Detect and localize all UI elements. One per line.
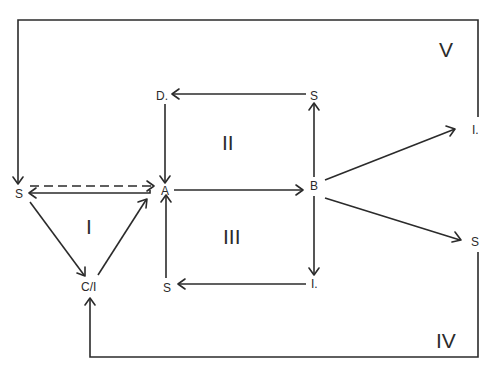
node-a: A [161, 184, 169, 198]
node-i-bottom: I. [311, 277, 318, 291]
cycle-diagram: S A B D. S I. S C/I S I. I II III IV V [0, 0, 503, 376]
edge-b-to-s-right [325, 198, 461, 242]
edge-b-to-s-top [309, 103, 319, 177]
edge-loop-v [13, 20, 478, 184]
edge-s-to-ci [30, 202, 85, 276]
region-label-ii: II [222, 131, 234, 154]
node-i-right: I. [472, 123, 479, 137]
edge-s-top-to-d [172, 89, 306, 99]
edge-loop-iv [85, 252, 478, 357]
edge-b-to-i-bottom [309, 196, 319, 275]
node-b: B [310, 179, 318, 193]
node-s-left: S [15, 187, 23, 201]
node-c-i: C/I [81, 280, 96, 294]
edge-s-bottom-to-a [161, 195, 171, 278]
edge-i-bottom-to-s-bottom [178, 279, 306, 289]
node-s-right: S [471, 235, 479, 249]
edge-d-to-a [160, 104, 170, 183]
region-label-v: V [439, 38, 453, 61]
edge-ci-to-a [98, 199, 147, 275]
edge-b-to-i-right [325, 126, 455, 180]
edge-a-to-b [174, 185, 303, 195]
node-s-bottom: S [163, 281, 171, 295]
arrowhead-icon [452, 232, 461, 242]
region-label-iii: III [223, 225, 241, 248]
node-s-top: S [310, 89, 318, 103]
edge-a-to-s [29, 188, 150, 198]
region-label-iv: IV [436, 329, 456, 352]
region-label-i: I [86, 215, 92, 238]
edge-s-to-a-dashed [30, 181, 154, 191]
node-d: D. [156, 89, 168, 103]
